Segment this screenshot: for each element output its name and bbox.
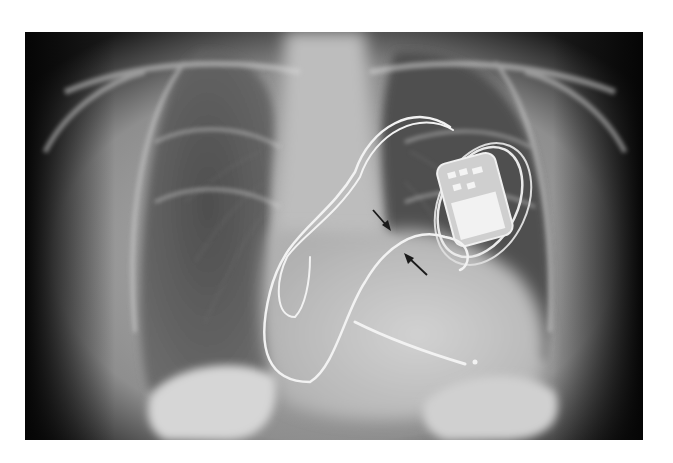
- chest-xray-image: [25, 32, 643, 440]
- xray-illustration: [25, 32, 643, 440]
- right-edge-shadow: [553, 32, 643, 440]
